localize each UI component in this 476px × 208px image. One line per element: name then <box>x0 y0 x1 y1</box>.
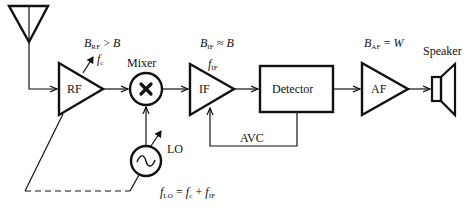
rf-tuning-link <box>25 114 63 191</box>
rf-label: RF <box>67 82 82 96</box>
if-label: IF <box>199 82 210 96</box>
if-bandwidth-annotation: BIF ≈ B <box>200 36 234 54</box>
rf-tuning-arrow <box>83 57 93 73</box>
af-label: AF <box>371 82 386 96</box>
detector-label: Detector <box>272 82 313 96</box>
lo-tuning-link <box>130 175 139 191</box>
multiply-icon <box>141 84 151 94</box>
speaker-icon <box>432 64 455 115</box>
if-frequency-annotation: fIF <box>208 57 218 75</box>
antenna-feed-line <box>29 42 57 89</box>
lo-tuning-arrow <box>151 131 161 146</box>
lo-frequency-formula: fLO = fc + fIF <box>160 185 215 203</box>
rf-frequency-annotation: fc <box>97 52 104 70</box>
speaker-label: Speaker <box>423 44 462 58</box>
antenna-icon <box>9 6 48 42</box>
lo-label: LO <box>167 142 183 156</box>
af-bandwidth-annotation: BAF = W <box>364 36 403 54</box>
avc-label: AVC <box>240 131 264 145</box>
mixer-label: Mixer <box>127 56 156 70</box>
receiver-diagram <box>0 0 476 208</box>
sine-wave-icon <box>137 156 155 166</box>
